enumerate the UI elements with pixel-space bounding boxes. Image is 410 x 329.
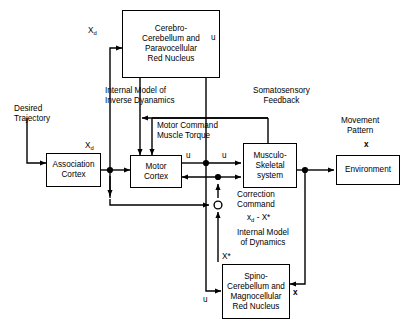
box-musculo-skeletal-label: Musculo- Skeletal system bbox=[251, 151, 288, 181]
label-xd-top: Xd bbox=[88, 26, 97, 36]
label-movement-pattern-variable: x bbox=[364, 140, 369, 150]
label-internal-model-dynamics: Internal Model of Dynamics bbox=[237, 228, 289, 248]
junction-dot-u bbox=[203, 160, 209, 166]
junction-dot-x bbox=[302, 167, 308, 173]
label-u-motor-output: u bbox=[186, 151, 191, 161]
junction-dot-correction bbox=[215, 174, 221, 180]
label-xd-association: Xd bbox=[85, 141, 94, 151]
label-x-bottom: x bbox=[293, 288, 298, 298]
junction-dot-xd bbox=[107, 167, 113, 173]
diagram-canvas: Cerebro- Cerebellum and Paravocellular R… bbox=[0, 0, 410, 329]
label-x-star: X* bbox=[222, 252, 231, 262]
box-spino-cerebellum-label: Spino- Cerebellum and Magnocellular Red … bbox=[225, 272, 287, 312]
box-environment-label: Environment bbox=[343, 165, 393, 175]
correction-expr-sub: d bbox=[251, 217, 254, 223]
box-motor-cortex-label: Motor Cortex bbox=[142, 162, 170, 182]
label-xd-association-sub: d bbox=[90, 145, 93, 151]
box-cerebro-cerebellum-label: Cerebro- Cerebellum and Paravocellular R… bbox=[140, 24, 202, 64]
label-u-top-right-text: u bbox=[211, 33, 216, 42]
box-musculo-skeletal[interactable]: Musculo- Skeletal system bbox=[243, 143, 297, 188]
label-desired-trajectory: Desired Trajectory bbox=[14, 104, 50, 124]
box-spino-cerebellum[interactable]: Spino- Cerebellum and Magnocellular Red … bbox=[222, 264, 290, 319]
label-somatosensory-feedback: Somatosensory Feedback bbox=[253, 86, 310, 106]
box-association-cortex[interactable]: Association Cortex bbox=[46, 153, 101, 187]
label-motor-command: Motor Command Muscle Torque bbox=[157, 121, 218, 141]
correction-expr-rest: - X* bbox=[254, 213, 270, 222]
label-correction-expression: xd - X* bbox=[247, 213, 270, 223]
summing-junction-circle bbox=[214, 201, 222, 209]
label-xd-top-sub: d bbox=[93, 30, 96, 36]
label-u-junction: u bbox=[222, 151, 227, 161]
box-association-cortex-label: Association Cortex bbox=[51, 160, 97, 180]
label-internal-model-inverse: Internal Model of Inverse Dyanamics bbox=[105, 86, 175, 106]
box-motor-cortex[interactable]: Motor Cortex bbox=[130, 155, 182, 188]
label-u-top-right: u bbox=[211, 33, 216, 43]
label-u-bottom: u bbox=[203, 295, 208, 305]
box-environment[interactable]: Environment bbox=[336, 155, 400, 185]
label-correction-command: Correction Command bbox=[237, 190, 275, 210]
label-movement-pattern: Movement Pattern bbox=[341, 116, 379, 136]
box-cerebro-cerebellum[interactable]: Cerebro- Cerebellum and Paravocellular R… bbox=[122, 10, 220, 78]
